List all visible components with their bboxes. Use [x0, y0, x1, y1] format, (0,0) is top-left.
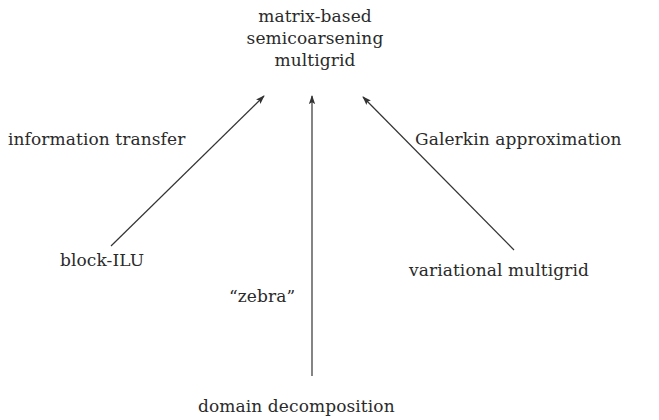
node-block-ilu: block-ILU — [60, 250, 144, 270]
edge-label-zebra: “zebra” — [229, 286, 295, 306]
node-domain-decomposition: domain decomposition — [198, 396, 395, 416]
diagram-canvas: matrix-based semicoarsening multigrid in… — [0, 0, 659, 420]
arrow-right-edge — [363, 97, 514, 250]
arrows-layer — [0, 0, 659, 420]
node-variational-multigrid: variational multigrid — [409, 260, 589, 280]
edge-label-galerkin-approximation: Galerkin approximation — [415, 129, 622, 149]
edge-label-information-transfer: information transfer — [8, 129, 185, 149]
arrow-left-edge — [111, 96, 264, 246]
